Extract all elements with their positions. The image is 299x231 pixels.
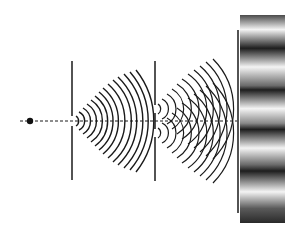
- double-slit-diagram: Double-slit interference: [0, 0, 299, 231]
- interference-fringe-panel: [240, 15, 285, 223]
- light-source-dot: [27, 118, 33, 124]
- diagram-canvas: [0, 0, 299, 231]
